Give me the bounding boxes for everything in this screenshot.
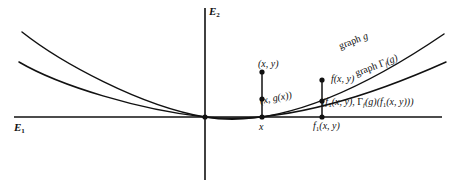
point-x-axis-dot: [259, 114, 264, 119]
point-label-xy: (x, y): [258, 59, 279, 69]
axis-point-label-x: x: [259, 122, 263, 132]
point-f1xy-axis-dot: [319, 114, 324, 119]
point-xy-dot: [259, 69, 264, 74]
axis-label-e2: E2: [209, 6, 220, 19]
origin-dot: [202, 114, 207, 119]
axis-point-label-f1-xy: f1(x, y): [313, 121, 340, 133]
point-label-f-xy: f(x, y): [331, 74, 354, 84]
point-label-pair: (f1(x, y), Γf(g)(f1(x, y))): [322, 97, 414, 109]
point-fxy-dot: [319, 77, 324, 82]
math-diagram-figure: E1 E2 graph g graph Γf(g) (x, y) (x, g(x…: [0, 0, 451, 187]
axis-label-e1: E1: [14, 122, 25, 135]
diagram-canvas: [0, 0, 451, 187]
